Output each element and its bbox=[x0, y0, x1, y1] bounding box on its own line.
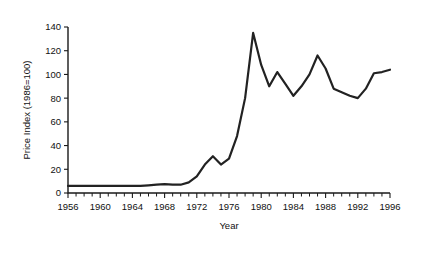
x-axis-label: Year bbox=[219, 220, 238, 231]
x-tick-label: 1964 bbox=[122, 201, 143, 212]
x-tick-label: 1988 bbox=[315, 201, 336, 212]
price-index-line-chart: 0204060801001201401956196019641968197219… bbox=[0, 0, 425, 255]
y-tick-label: 20 bbox=[50, 164, 61, 175]
x-tick-label: 1956 bbox=[57, 201, 78, 212]
axis-spines bbox=[68, 27, 390, 193]
y-tick-label: 120 bbox=[45, 45, 61, 56]
y-tick-label: 100 bbox=[45, 69, 61, 80]
y-tick-label: 80 bbox=[50, 93, 61, 104]
y-tick-label: 0 bbox=[56, 187, 61, 198]
x-tick-label: 1996 bbox=[379, 201, 400, 212]
x-tick-label: 1984 bbox=[283, 201, 304, 212]
x-tick-label: 1980 bbox=[251, 201, 272, 212]
x-tick-label: 1992 bbox=[347, 201, 368, 212]
y-tick-label: 60 bbox=[50, 116, 61, 127]
series-line-0 bbox=[68, 33, 390, 186]
x-tick-label: 1976 bbox=[218, 201, 239, 212]
x-tick-label: 1968 bbox=[154, 201, 175, 212]
x-tick-label: 1972 bbox=[186, 201, 207, 212]
x-tick-label: 1960 bbox=[90, 201, 111, 212]
y-tick-label: 40 bbox=[50, 140, 61, 151]
y-tick-label: 140 bbox=[45, 21, 61, 32]
y-axis-label: Price Index (1986=100) bbox=[21, 60, 32, 159]
